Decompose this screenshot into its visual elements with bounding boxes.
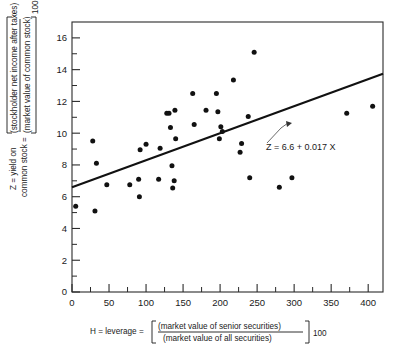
y-tick-label: 6	[62, 191, 67, 202]
data-point	[218, 124, 223, 129]
x-tick-label: 350	[323, 297, 339, 308]
data-point	[190, 91, 195, 96]
data-point	[215, 109, 220, 114]
x-label-multiplier: 100	[313, 329, 327, 338]
data-point	[170, 185, 175, 190]
data-point	[137, 194, 142, 199]
data-point	[231, 77, 236, 82]
data-point	[246, 114, 251, 119]
x-label-numerator: (market value of senior securities)	[158, 322, 281, 331]
y-axis-tick-labels: 0246810121416	[56, 32, 67, 297]
data-point	[214, 91, 219, 96]
x-tick-label: 400	[360, 297, 376, 308]
data-point	[172, 108, 177, 113]
data-point	[277, 185, 282, 190]
x-label-prefix: H = leverage =	[90, 327, 144, 336]
y-label-multiplier: 100	[31, 0, 40, 14]
y-axis-label-group: Z = yield on common stock = (stockholder…	[7, 0, 40, 197]
data-point	[144, 142, 149, 147]
y-tick-label: 8	[62, 159, 67, 170]
plot-frame	[72, 22, 383, 292]
data-point	[173, 136, 178, 141]
figure-container: 0246810121416 050100150200250300350400 Z…	[0, 0, 396, 354]
data-point	[73, 204, 78, 209]
data-point	[192, 122, 197, 127]
x-label-bracket-close	[305, 321, 309, 343]
x-tick-label: 250	[249, 297, 265, 308]
x-axis-ticks	[72, 284, 368, 292]
data-point	[172, 178, 177, 183]
x-tick-label: 100	[138, 297, 154, 308]
data-point	[158, 146, 163, 151]
x-label-bracket-open	[152, 321, 156, 343]
data-point	[92, 209, 97, 214]
data-point	[156, 177, 161, 182]
y-label-prefix-line1: Z = yield on	[9, 147, 18, 190]
y-label-prefix-line2: common stock =	[20, 137, 29, 197]
x-label-denominator: (market value of all securities)	[163, 334, 272, 343]
x-tick-label: 50	[104, 297, 115, 308]
y-label-numerator: (stockholder net income after taxes)	[10, 3, 19, 133]
x-tick-label: 0	[69, 297, 74, 308]
y-axis-ticks	[72, 38, 80, 292]
x-axis-label-group: H = leverage = (market value of senior s…	[90, 321, 327, 343]
annotation-arrowhead	[286, 121, 292, 127]
data-point	[217, 136, 222, 141]
x-tick-label: 150	[175, 297, 191, 308]
data-point	[204, 108, 209, 113]
x-tick-label: 300	[286, 297, 302, 308]
y-tick-label: 10	[56, 128, 67, 139]
y-tick-label: 16	[56, 32, 67, 43]
data-point	[344, 111, 349, 116]
regression-equation-label: Z = 6.6 + 0.017 X	[266, 142, 336, 152]
data-point	[90, 139, 95, 144]
data-point	[247, 175, 252, 180]
x-axis-tick-labels: 050100150200250300350400	[69, 297, 376, 308]
y-tick-label: 2	[62, 255, 67, 266]
data-point-group	[73, 50, 375, 214]
data-point	[168, 125, 173, 130]
data-point	[289, 175, 294, 180]
scatter-plot: 0246810121416 050100150200250300350400 Z…	[0, 0, 396, 354]
data-point	[104, 182, 109, 187]
regression-line	[72, 74, 383, 187]
annotation-leader-line	[267, 123, 288, 143]
data-point	[94, 161, 99, 166]
x-tick-label: 200	[212, 297, 228, 308]
data-point	[220, 129, 225, 134]
data-point	[239, 141, 244, 146]
y-tick-label: 12	[56, 96, 67, 107]
data-point	[238, 150, 243, 155]
data-point	[136, 177, 141, 182]
data-point	[252, 50, 257, 55]
y-tick-label: 14	[56, 64, 67, 75]
y-tick-label: 4	[62, 223, 67, 234]
y-label-denominator: (market value of common stock)	[23, 16, 32, 133]
data-point	[138, 147, 143, 152]
y-tick-label: 0	[62, 286, 67, 297]
data-point	[167, 111, 172, 116]
data-point	[127, 182, 132, 187]
data-point	[370, 104, 375, 109]
data-point	[169, 163, 174, 168]
